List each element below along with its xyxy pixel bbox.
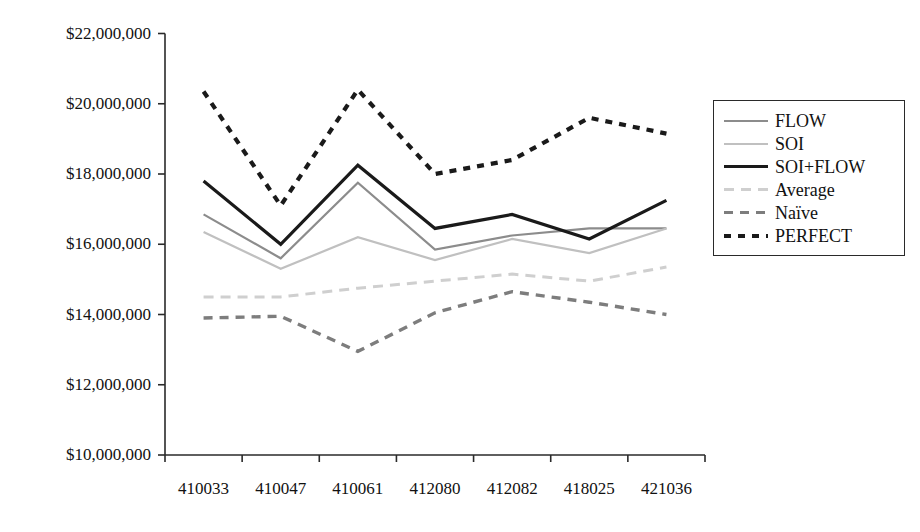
legend-line-swatch-icon bbox=[724, 160, 768, 174]
y-axis-tick-label: $10,000,000 bbox=[0, 446, 151, 463]
legend-item[interactable]: SOI+FLOW bbox=[724, 155, 892, 178]
chart-legend: FLOWSOISOI+FLOWAverageNaïvePERFECT bbox=[713, 100, 905, 256]
y-axis-tick-label: $16,000,000 bbox=[0, 235, 151, 252]
x-axis-tick-label: 421036 bbox=[628, 480, 705, 497]
series-line-perfect bbox=[204, 90, 667, 206]
legend-item-label: Average bbox=[775, 181, 835, 199]
x-axis-tick-label: 410033 bbox=[165, 480, 242, 497]
x-axis-tick-label: 410047 bbox=[242, 480, 319, 497]
series-line-na-ve bbox=[204, 292, 667, 352]
y-axis-tick-label: $18,000,000 bbox=[0, 165, 151, 182]
x-axis-tick-label: 410061 bbox=[319, 480, 396, 497]
legend-item-label: SOI+FLOW bbox=[775, 158, 865, 176]
series-line-soi-flow bbox=[204, 165, 667, 244]
legend-item[interactable]: PERFECT bbox=[724, 224, 892, 247]
legend-line-swatch-icon bbox=[724, 114, 768, 128]
series-line-flow bbox=[204, 183, 667, 259]
legend-item-label: FLOW bbox=[775, 112, 826, 130]
legend-item-label: SOI bbox=[775, 135, 804, 153]
legend-item-label: PERFECT bbox=[775, 227, 852, 245]
y-axis-tick-label: $14,000,000 bbox=[0, 306, 151, 323]
legend-item[interactable]: Average bbox=[724, 178, 892, 201]
y-axis-tick-label: $12,000,000 bbox=[0, 376, 151, 393]
legend-item[interactable]: SOI bbox=[724, 132, 892, 155]
x-axis-tick-label: 418025 bbox=[551, 480, 628, 497]
legend-line-swatch-icon bbox=[724, 137, 768, 151]
line-chart: $10,000,000$12,000,000$14,000,000$16,000… bbox=[0, 0, 920, 532]
x-axis-tick-label: 412082 bbox=[474, 480, 551, 497]
legend-line-swatch-icon bbox=[724, 206, 768, 220]
legend-line-swatch-icon bbox=[724, 183, 768, 197]
y-axis-tick-label: $20,000,000 bbox=[0, 95, 151, 112]
legend-item-label: Naïve bbox=[775, 204, 818, 222]
series-line-average bbox=[204, 267, 667, 297]
y-axis-tick-label: $22,000,000 bbox=[0, 25, 151, 42]
legend-line-swatch-icon bbox=[724, 229, 768, 243]
legend-item[interactable]: FLOW bbox=[724, 109, 892, 132]
legend-item[interactable]: Naïve bbox=[724, 201, 892, 224]
x-axis-tick-label: 412080 bbox=[396, 480, 473, 497]
